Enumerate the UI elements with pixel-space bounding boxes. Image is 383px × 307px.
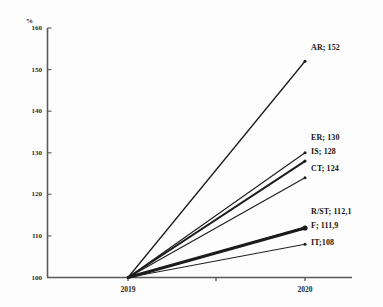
endpoint-marker-ar (304, 60, 307, 63)
series-line-ar (128, 61, 305, 277)
series-line-ct (128, 178, 305, 278)
x-tick-label-2019: 2019 (108, 285, 148, 294)
series-label-is: IS; 128 (311, 147, 336, 156)
series-label-it: IT;108 (311, 238, 334, 247)
endpoint-marker-f (302, 225, 307, 230)
y-tick-label-160: 160 (20, 24, 42, 32)
series-line-is (128, 161, 305, 277)
endpoint-marker-it (304, 243, 307, 246)
series-line-f (128, 228, 305, 277)
series-lines (128, 61, 305, 277)
series-label-f: F; 111,9 (311, 221, 338, 230)
series-endpoint-markers (302, 60, 307, 246)
endpoint-marker-ct (304, 176, 307, 179)
series-label-rst: R/ST; 112,1 (311, 207, 352, 216)
series-label-ct: CT; 124 (311, 164, 339, 173)
y-tick-label-140: 140 (20, 107, 42, 115)
y-tick-label-150: 150 (20, 66, 42, 74)
y-tick-label-110: 110 (20, 232, 42, 240)
series-label-er: ER; 130 (311, 133, 339, 142)
endpoint-marker-er (304, 151, 307, 154)
x-tick-label-2020: 2020 (285, 285, 325, 294)
y-tick-label-100: 100 (20, 274, 42, 282)
series-label-ar: AR; 152 (311, 43, 340, 52)
endpoint-marker-is (303, 159, 306, 162)
y-tick-label-120: 120 (20, 190, 42, 198)
series-line-er (128, 153, 305, 278)
y-tick-label-130: 130 (20, 149, 42, 157)
chart-figure: % 160 150 140 130 120 110 100 2019 2020 … (0, 0, 383, 307)
